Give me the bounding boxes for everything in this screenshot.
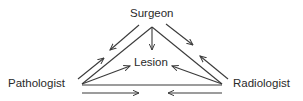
node-pathologist: Pathologist <box>8 78 65 90</box>
arrow-pathologist-to-surgeon <box>78 58 104 79</box>
arrow-radiologist-to-surgeon <box>200 56 228 79</box>
diagram-canvas: Surgeon Lesion Pathologist Radiologist <box>0 0 303 101</box>
node-surgeon: Surgeon <box>130 8 173 20</box>
arrow-surgeon-to-pathologist <box>110 25 139 50</box>
node-lesion: Lesion <box>134 57 168 69</box>
arrow-radiologist-to-lesion <box>172 66 222 84</box>
node-radiologist: Radiologist <box>233 78 290 90</box>
arrow-pathologist-to-lesion <box>82 66 130 84</box>
